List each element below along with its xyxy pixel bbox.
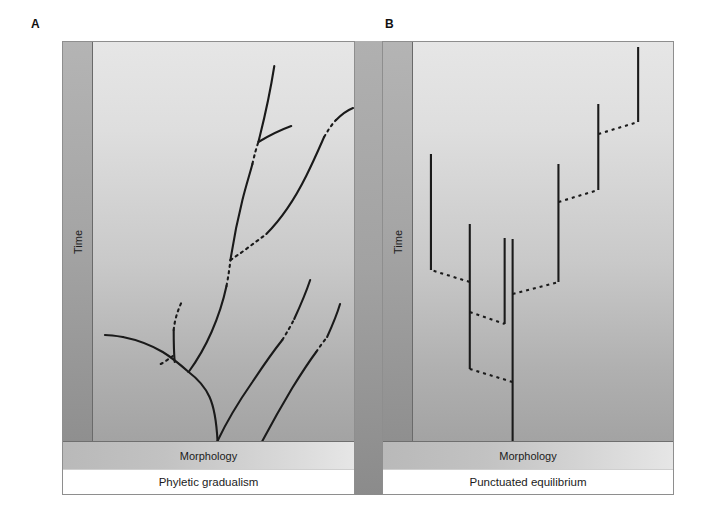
time-axis-band-b: Time <box>383 42 413 441</box>
panel-divider-band <box>355 41 383 495</box>
punctuation-right-upper <box>558 190 598 202</box>
lineage-trunk <box>189 372 218 441</box>
plot-area-punctuated <box>413 42 673 441</box>
caption-punctuated-equilibrium: Punctuated equilibrium <box>470 476 587 488</box>
lineage-right-long <box>266 137 324 234</box>
transition-dotted-right-top <box>324 120 336 137</box>
transition-dotted-lowerright-b <box>316 337 327 352</box>
evolution-models-figure: A Time <box>0 0 703 523</box>
plot-wrap-b: Time <box>383 42 673 441</box>
time-axis-label-b: Time <box>392 229 404 253</box>
lineage-upper-left-tip <box>258 66 274 142</box>
lineage-upper-right-short <box>258 126 291 142</box>
panel-punctuated-equilibrium: Time <box>382 41 674 495</box>
lineage-lowerright-b-tip <box>327 304 340 337</box>
lineage-right-top-tip <box>336 108 353 120</box>
punctuation-left-outer <box>431 270 470 282</box>
transition-dotted-left-stub <box>174 300 183 330</box>
lineage-lowerright-a <box>218 340 283 441</box>
transition-dotted-lowerright-a <box>282 319 294 340</box>
panel-letter-a: A <box>31 17 40 31</box>
lineage-left-lower <box>123 337 189 372</box>
panel-letter-b: B <box>385 17 394 31</box>
transition-dotted-right-run <box>230 234 266 260</box>
gradualism-tree-svg <box>93 42 354 441</box>
caption-band-a: Phyletic gradualism <box>63 469 354 494</box>
transition-dotted-upper-left <box>252 142 258 164</box>
caption-band-b: Punctuated equilibrium <box>383 469 673 494</box>
punctuation-mid-left <box>470 312 505 324</box>
lineage-lowerright-b <box>262 352 316 441</box>
lineage-upper-left <box>230 164 252 260</box>
morphology-axis-label-a: Morphology <box>180 450 237 462</box>
lineage-left-stub <box>174 330 175 362</box>
morphology-axis-band-a: Morphology <box>63 441 354 469</box>
caption-phyletic-gradualism: Phyletic gradualism <box>159 476 259 488</box>
morphology-axis-band-b: Morphology <box>383 441 673 469</box>
time-axis-label-a: Time <box>72 229 84 253</box>
lineage-center <box>189 286 227 372</box>
morphology-axis-label-b: Morphology <box>499 450 556 462</box>
punctuation-right-top <box>598 122 638 134</box>
panel-phyletic-gradualism: Time <box>62 41 355 495</box>
plot-area-gradualism <box>93 42 354 441</box>
punctuated-tree-svg <box>413 42 673 441</box>
punctuation-base-left <box>470 369 513 382</box>
transition-dotted-left <box>161 356 173 364</box>
transition-dotted-center <box>226 260 230 286</box>
time-axis-band-a: Time <box>63 42 93 441</box>
lineage-left-tip <box>105 335 123 337</box>
punctuation-trunk-right <box>513 282 559 294</box>
lineage-lowerright-a-tip <box>294 280 310 319</box>
plot-wrap-a: Time <box>63 42 354 441</box>
